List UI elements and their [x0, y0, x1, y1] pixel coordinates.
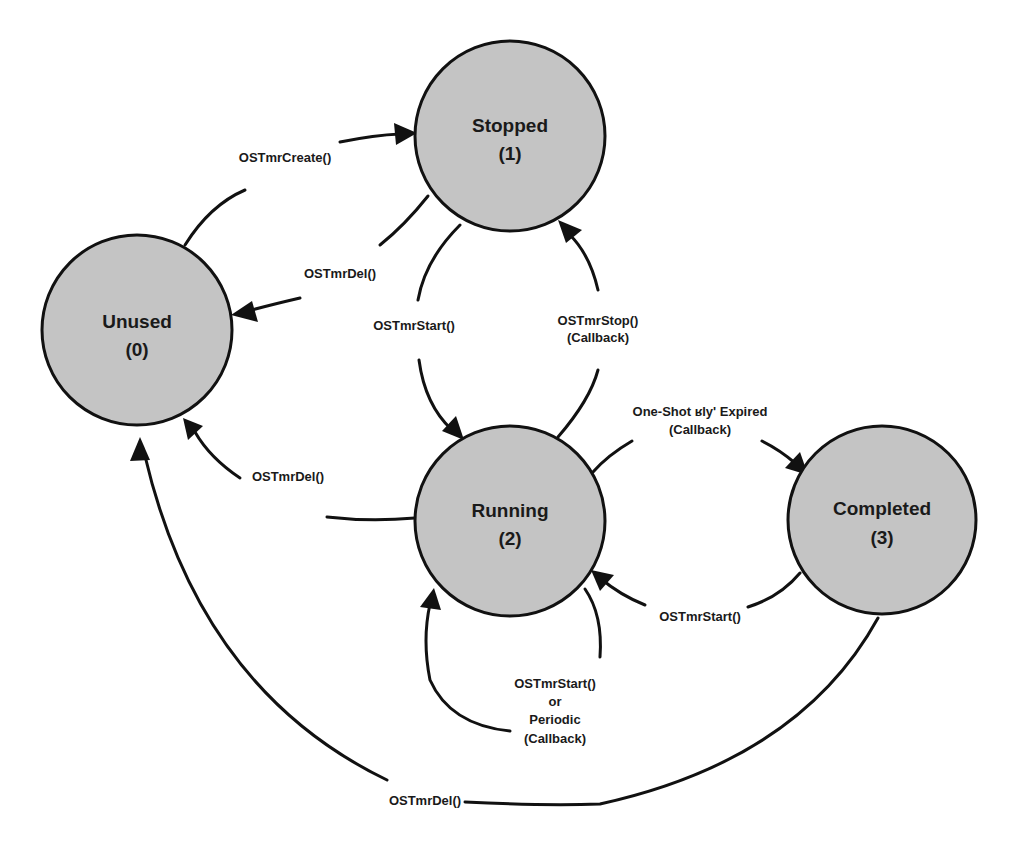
- timer-state-diagram: OSTmrCreate() OSTmrDel() OSTmrStart() OS…: [0, 0, 1014, 848]
- transition-del-running: OSTmrDel(): [183, 418, 415, 520]
- label-start-completed: OSTmrStart(): [659, 609, 741, 624]
- transition-start-completed: OSTmrStart(): [591, 570, 800, 624]
- label-oneshot-line2: (Callback): [669, 422, 731, 437]
- state-stopped: Stopped (1): [415, 41, 605, 231]
- state-unused: Unused (0): [42, 235, 232, 425]
- label-del-running: OSTmrDel(): [252, 469, 324, 484]
- label-start-stopped: OSTmrStart(): [373, 318, 455, 333]
- transition-stop-running: OSTmrStop() (Callback): [558, 220, 639, 437]
- arrowhead-icon: [558, 220, 582, 243]
- state-stopped-name: Stopped: [472, 115, 548, 136]
- arrowhead-icon: [130, 437, 150, 461]
- arrowhead-icon: [420, 588, 441, 610]
- label-self-line4: (Callback): [524, 731, 586, 746]
- label-self-line1: OSTmrStart(): [514, 676, 596, 691]
- state-completed: Completed (3): [788, 426, 976, 614]
- transition-create: OSTmrCreate(): [185, 123, 417, 245]
- state-completed-number: (3): [870, 527, 893, 548]
- label-stop-line1: OSTmrStop(): [558, 313, 639, 328]
- label-stop-line2: (Callback): [567, 330, 629, 345]
- arrowhead-icon: [231, 301, 258, 322]
- state-unused-number: (0): [125, 339, 148, 360]
- arrowhead-icon: [442, 416, 464, 440]
- transition-del-stopped: OSTmrDel(): [231, 196, 428, 322]
- state-running-number: (2): [498, 528, 521, 549]
- label-del-completed: OSTmrDel(): [389, 793, 461, 808]
- label-create: OSTmrCreate(): [239, 150, 331, 165]
- state-stopped-number: (1): [498, 143, 521, 164]
- transition-oneshot: One-Shot ʁly' Expired (Callback): [593, 404, 808, 475]
- state-completed-name: Completed: [833, 498, 931, 519]
- label-del-stopped: OSTmrDel(): [304, 266, 376, 281]
- label-oneshot-line1: One-Shot ʁly' Expired: [633, 404, 768, 419]
- state-running-name: Running: [471, 500, 548, 521]
- arrowhead-icon: [183, 418, 203, 440]
- label-self-line3: Periodic: [529, 712, 580, 727]
- label-self-line2: or: [549, 694, 562, 709]
- state-unused-name: Unused: [102, 311, 172, 332]
- transition-start-stopped: OSTmrStart(): [373, 225, 464, 440]
- state-running: Running (2): [415, 426, 605, 616]
